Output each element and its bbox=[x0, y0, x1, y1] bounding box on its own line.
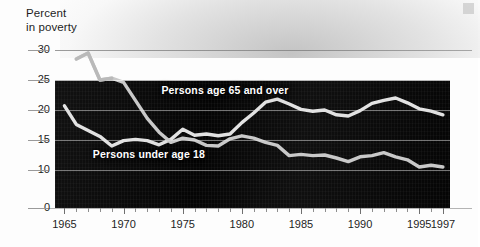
x-tick-1971 bbox=[135, 208, 136, 212]
x-tick-1989 bbox=[348, 208, 349, 212]
x-tick-1983 bbox=[277, 208, 278, 212]
x-tick-1993 bbox=[396, 208, 397, 212]
x-tick-1986 bbox=[313, 208, 314, 212]
x-tick-1982 bbox=[266, 208, 267, 212]
x-tick-label-1985: 1985 bbox=[289, 218, 313, 230]
x-tick-1978 bbox=[218, 208, 219, 212]
x-tick-1992 bbox=[384, 208, 385, 212]
x-tick-1973 bbox=[159, 208, 160, 212]
x-tick-label-1975: 1975 bbox=[170, 218, 194, 230]
x-axis: 19651970197519801985199019951997 bbox=[55, 208, 450, 247]
x-tick-1974 bbox=[171, 208, 172, 212]
x-tick-1969 bbox=[112, 208, 113, 212]
series-label-under-18: Persons under age 18 bbox=[93, 148, 205, 160]
x-tick-1970 bbox=[124, 208, 125, 214]
x-tick-1987 bbox=[325, 208, 326, 212]
x-tick-1976 bbox=[195, 208, 196, 212]
x-tick-1994 bbox=[407, 208, 408, 212]
x-tick-1968 bbox=[100, 208, 101, 212]
x-tick-1966 bbox=[76, 208, 77, 212]
x-tick-1975 bbox=[183, 208, 184, 214]
x-tick-1972 bbox=[147, 208, 148, 212]
x-tick-1984 bbox=[289, 208, 290, 212]
x-tick-1997 bbox=[443, 208, 444, 214]
x-tick-1981 bbox=[254, 208, 255, 212]
x-tick-label-1990: 1990 bbox=[348, 218, 372, 230]
x-tick-label-1980: 1980 bbox=[230, 218, 254, 230]
x-tick-1995 bbox=[419, 208, 420, 214]
x-tick-1985 bbox=[301, 208, 302, 214]
x-tick-label-1965: 1965 bbox=[52, 218, 76, 230]
x-tick-label-1995: 1995 bbox=[407, 218, 431, 230]
x-tick-1967 bbox=[88, 208, 89, 212]
x-tick-1980 bbox=[242, 208, 243, 214]
x-tick-1991 bbox=[372, 208, 373, 212]
x-tick-1988 bbox=[336, 208, 337, 212]
x-tick-label-1970: 1970 bbox=[111, 218, 135, 230]
x-tick-1990 bbox=[360, 208, 361, 214]
line-over-65-above-panel bbox=[76, 53, 111, 80]
series-label-over-65: Persons age 65 and over bbox=[161, 84, 288, 96]
x-tick-1979 bbox=[230, 208, 231, 212]
x-tick-1977 bbox=[206, 208, 207, 212]
x-tick-label-1997: 1997 bbox=[431, 218, 455, 230]
x-tick-1965 bbox=[64, 208, 65, 214]
x-tick-1996 bbox=[431, 208, 432, 212]
